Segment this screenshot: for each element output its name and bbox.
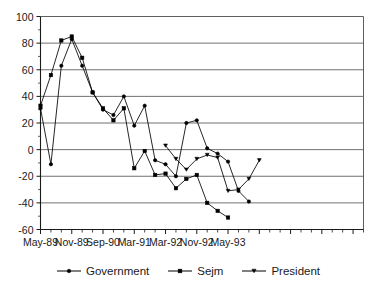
chart-figure: 100806040200-20-40-60 May-89Nov-89Sep-90… [0,0,376,295]
square-marker-icon [167,265,193,277]
y-tick-label: -20 [0,171,34,182]
gridlines [41,17,364,230]
legend-label: Government [86,265,149,277]
y-axis-ticks [37,17,41,230]
y-tick-label: 100 [0,12,34,23]
y-tick-label: 40 [0,91,34,102]
legend-item-sejm[interactable]: Sejm [167,265,223,277]
y-tick-label: 20 [0,118,34,129]
circle-marker-icon [56,265,82,277]
series-government [39,37,251,203]
y-tick-label: -60 [0,225,34,236]
legend-item-president[interactable]: President [241,265,320,277]
triangle-down-marker-icon [241,265,267,277]
legend-label: Sejm [197,265,223,277]
y-tick-label: 60 [0,65,34,76]
legend-label: President [271,265,320,277]
y-tick-label: -40 [0,198,34,209]
y-tick-label: 80 [0,38,34,49]
legend-item-government[interactable]: Government [56,265,149,277]
line-chart-canvas [0,0,376,295]
y-tick-label: 0 [0,145,34,156]
x-axis-ticks [41,230,364,235]
chart-legend: GovernmentSejmPresident [0,259,376,283]
x-tick-label: May-93 [198,237,258,248]
